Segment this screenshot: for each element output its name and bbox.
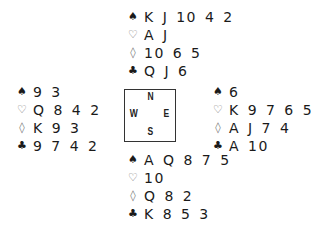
club-icon: ♣ xyxy=(127,205,139,223)
north-diamonds: 10 6 5 xyxy=(144,44,202,62)
east-hearts-row: ♡ K 9 7 6 5 3 xyxy=(212,101,311,119)
west-diamonds: K 9 3 xyxy=(33,119,80,137)
heart-icon: ♡ xyxy=(212,101,224,119)
east-diamonds-row: ◊ A J 7 4 xyxy=(212,119,311,137)
north-hearts-row: ♡ A J xyxy=(127,26,234,44)
south-diamonds: Q 8 2 xyxy=(144,187,193,205)
west-clubs-row: ♣ 9 7 4 2 xyxy=(16,137,101,155)
heart-icon: ♡ xyxy=(127,26,139,44)
east-hearts: K 9 7 6 5 3 xyxy=(229,101,311,119)
west-hearts-row: ♡ Q 8 4 2 xyxy=(16,101,101,119)
club-icon: ♣ xyxy=(16,137,28,155)
east-hand: ♠ 6 ♡ K 9 7 6 5 3 ◊ A J 7 4 ♣ A 10 xyxy=(212,83,311,155)
compass-east-label: E xyxy=(164,108,170,119)
south-clubs: K 8 5 3 xyxy=(144,205,210,223)
club-icon: ♣ xyxy=(127,62,139,80)
compass-west-label: W xyxy=(130,108,138,119)
south-hand: ♠ A Q 8 7 5 ♡ 10 ◊ Q 8 2 ♣ K 8 5 3 xyxy=(127,151,231,223)
spade-icon: ♠ xyxy=(212,83,224,101)
east-spades-row: ♠ 6 xyxy=(212,83,311,101)
west-spades-row: ♠ 9 3 xyxy=(16,83,101,101)
north-hearts: A J xyxy=(144,26,169,44)
south-spades: A Q 8 7 5 xyxy=(144,151,231,169)
south-hearts-row: ♡ 10 xyxy=(127,169,231,187)
north-clubs: Q J 6 xyxy=(144,62,188,80)
north-diamonds-row: ◊ 10 6 5 xyxy=(127,44,234,62)
compass-box: N W E S xyxy=(124,89,176,142)
spade-icon: ♠ xyxy=(127,151,139,169)
east-clubs: A 10 xyxy=(229,137,269,155)
south-spades-row: ♠ A Q 8 7 5 xyxy=(127,151,231,169)
spade-icon: ♠ xyxy=(127,8,139,26)
south-diamonds-row: ◊ Q 8 2 xyxy=(127,187,231,205)
south-clubs-row: ♣ K 8 5 3 xyxy=(127,205,231,223)
diamond-icon: ◊ xyxy=(212,119,224,137)
west-spades: 9 3 xyxy=(33,83,62,101)
north-hand: ♠ K J 10 4 2 ♡ A J ◊ 10 6 5 ♣ Q J 6 xyxy=(127,8,234,80)
heart-icon: ♡ xyxy=(16,101,28,119)
east-spades: 6 xyxy=(229,83,239,101)
diamond-icon: ◊ xyxy=(16,119,28,137)
west-hearts: Q 8 4 2 xyxy=(33,101,101,119)
north-spades: K J 10 4 2 xyxy=(144,8,234,26)
compass-south-label: S xyxy=(148,126,154,137)
east-diamonds: A J 7 4 xyxy=(229,119,290,137)
heart-icon: ♡ xyxy=(127,169,139,187)
west-clubs: 9 7 4 2 xyxy=(33,137,98,155)
west-hand: ♠ 9 3 ♡ Q 8 4 2 ◊ K 9 3 ♣ 9 7 4 2 xyxy=(16,83,101,155)
west-diamonds-row: ◊ K 9 3 xyxy=(16,119,101,137)
spade-icon: ♠ xyxy=(16,83,28,101)
diamond-icon: ◊ xyxy=(127,187,139,205)
north-clubs-row: ♣ Q J 6 xyxy=(127,62,234,80)
south-hearts: 10 xyxy=(144,169,165,187)
north-spades-row: ♠ K J 10 4 2 xyxy=(127,8,234,26)
compass-north-label: N xyxy=(148,91,154,102)
diamond-icon: ◊ xyxy=(127,44,139,62)
